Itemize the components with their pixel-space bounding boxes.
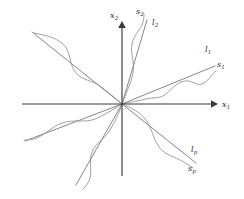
principal-line-lower-left bbox=[25, 104, 122, 141]
label-sp: sp bbox=[188, 163, 196, 175]
axes-group bbox=[22, 21, 218, 176]
y-axis-arrowhead bbox=[118, 21, 126, 28]
label-s2: s2 bbox=[136, 6, 144, 17]
label-lp: lp bbox=[191, 144, 198, 156]
principal-line-l2 bbox=[122, 20, 147, 104]
label-l1: l1 bbox=[205, 44, 211, 55]
x-axis-arrowhead bbox=[211, 100, 218, 108]
principal-curves-figure: x1 x2 l1 s1 l2 s2 lp sp bbox=[0, 0, 244, 199]
y-axis-label: x2 bbox=[110, 10, 119, 21]
principal-curve-sp bbox=[122, 104, 193, 168]
label-l2: l2 bbox=[152, 17, 159, 28]
principal-line-upper-left bbox=[32, 32, 122, 104]
principal-line-lower-steep bbox=[76, 104, 122, 185]
label-s1: s1 bbox=[217, 59, 225, 70]
principal-curve-s1 bbox=[122, 71, 216, 104]
figure-canvas: x1 x2 l1 s1 l2 s2 lp sp bbox=[0, 0, 244, 199]
principal-line-l1 bbox=[122, 66, 215, 104]
x-axis-label: x1 bbox=[222, 99, 230, 110]
principal-line-lp bbox=[122, 104, 196, 163]
